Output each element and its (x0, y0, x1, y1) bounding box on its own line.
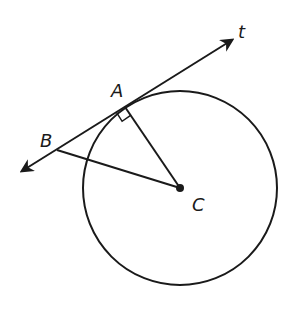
segment-ac (125, 107, 180, 188)
label-c: C (192, 194, 205, 215)
center-point-c (176, 184, 184, 192)
label-t: t (238, 21, 246, 42)
tangent-diagram: t A B C (0, 0, 295, 309)
label-b: B (40, 130, 52, 151)
tangent-line-t (22, 40, 232, 171)
segment-bc (57, 150, 180, 188)
label-a: A (110, 80, 123, 101)
